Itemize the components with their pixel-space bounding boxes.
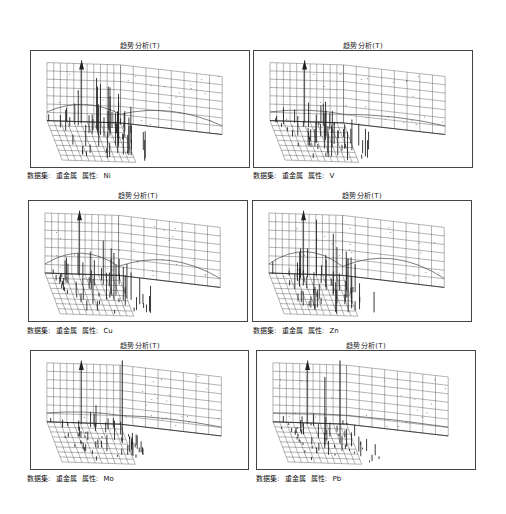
dataset-label: 数据集: (256, 475, 279, 483)
chart-title: 趋势分析(T) (252, 190, 472, 200)
dataset-label: 数据集: (253, 172, 276, 180)
chart-caption: 数据集: 重金属 属性: Mo (27, 473, 117, 483)
dataset-value: 重金属 (56, 172, 77, 180)
dataset-value: 重金属 (282, 327, 303, 335)
dataset-label: 数据集: (27, 475, 50, 483)
attribute-label: 属性: (308, 327, 324, 335)
dataset-label: 数据集: (27, 172, 50, 180)
dataset-label: 数据集: (27, 327, 50, 335)
attribute-value: Mo (103, 475, 113, 483)
chart-title: 趋势分析(T) (28, 190, 248, 200)
trend-chart-zn (252, 200, 472, 322)
attribute-value: Cu (103, 327, 112, 335)
trend-chart-pb (256, 350, 476, 470)
attribute-label: 属性: (82, 327, 98, 335)
attribute-value: Ni (103, 172, 110, 180)
trend-chart-ni (30, 50, 250, 168)
attribute-value: V (329, 172, 334, 180)
chart-caption: 数据集: 重金属 属性: Zn (253, 325, 342, 335)
chart-title: 趋势分析(T) (30, 340, 250, 350)
dataset-label: 数据集: (253, 327, 276, 335)
dataset-value: 重金属 (56, 475, 77, 483)
attribute-label: 属性: (308, 172, 324, 180)
chart-caption: 数据集: 重金属 属性: Ni (27, 170, 114, 180)
trend-chart-v (253, 50, 473, 168)
dataset-value: 重金属 (282, 172, 303, 180)
chart-caption: 数据集: 重金属 属性: Cu (27, 325, 116, 335)
chart-title: 趋势分析(T) (253, 40, 473, 50)
chart-title: 趋势分析(T) (30, 40, 250, 50)
chart-caption: 数据集: 重金属 属性: V (253, 170, 337, 180)
trend-chart-cu (28, 200, 248, 322)
attribute-label: 属性: (82, 172, 98, 180)
attribute-label: 属性: (311, 475, 327, 483)
attribute-label: 属性: (82, 475, 98, 483)
chart-title: 趋势分析(T) (256, 340, 476, 350)
trend-chart-mo (30, 350, 249, 470)
attribute-value: Zn (329, 327, 338, 335)
dataset-value: 重金属 (285, 475, 306, 483)
dataset-value: 重金属 (56, 327, 77, 335)
attribute-value: Pb (332, 475, 341, 483)
chart-caption: 数据集: 重金属 属性: Pb (256, 473, 344, 483)
